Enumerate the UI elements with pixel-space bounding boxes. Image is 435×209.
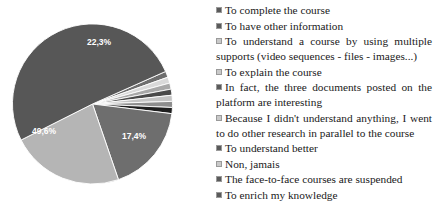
legend-item[interactable]: Because I didn't understand anything, I … — [216, 110, 432, 140]
legend-marker-swatch — [216, 161, 222, 167]
legend-item-label: To understand a course by using multiple… — [216, 35, 432, 62]
legend-marker-swatch — [216, 176, 222, 182]
legend-item-label: In fact, the three documents posted on t… — [216, 81, 432, 108]
legend-item[interactable]: To understand a course by using multiple… — [216, 33, 432, 63]
pie-slice-percent-label: 17,4% — [122, 131, 147, 141]
legend-marker-swatch — [216, 69, 222, 75]
legend-item-label: Because I didn't understand anything, I … — [216, 112, 432, 139]
legend-item-label: The face-to-face courses are suspended — [225, 173, 403, 185]
pie-slice-percent-label: 49,6% — [32, 126, 57, 136]
legend-marker-swatch — [216, 192, 222, 198]
legend-item-label: To enrich my knowledge — [225, 189, 337, 201]
pie-chart: 22,3%17,4%49,6% — [0, 0, 212, 209]
legend-marker-swatch — [216, 7, 222, 13]
legend-item-label: To have other information — [225, 20, 343, 32]
legend-item-label: Non, jamais — [225, 158, 280, 170]
legend-item[interactable]: In fact, the three documents posted on t… — [216, 79, 432, 109]
pie-slice-percent-label: 22,3% — [87, 37, 112, 47]
legend-item[interactable]: To understand better — [216, 140, 432, 155]
legend-item[interactable]: To explain the course — [216, 64, 432, 79]
legend-marker-swatch — [216, 145, 222, 151]
pie-chart-svg: 22,3%17,4%49,6% — [0, 0, 212, 209]
legend-item-label: To complete the course — [225, 4, 330, 16]
figure-root: 22,3%17,4%49,6% To complete the courseTo… — [0, 0, 435, 209]
legend-item-label: To explain the course — [225, 66, 322, 78]
legend-item[interactable]: To enrich my knowledge — [216, 187, 432, 202]
legend-marker-swatch — [216, 84, 222, 90]
legend-item[interactable]: Non, jamais — [216, 156, 432, 171]
legend-item[interactable]: The face-to-face courses are suspended — [216, 171, 432, 186]
legend-item-label: To understand better — [225, 142, 318, 154]
legend-marker-swatch — [216, 23, 222, 29]
legend-marker-swatch — [216, 115, 222, 121]
legend-item[interactable]: To have other information — [216, 18, 432, 33]
legend-marker-swatch — [216, 38, 222, 44]
pie-slices — [12, 24, 172, 184]
legend: To complete the courseTo have other info… — [216, 2, 432, 207]
legend-item[interactable]: To complete the course — [216, 2, 432, 17]
